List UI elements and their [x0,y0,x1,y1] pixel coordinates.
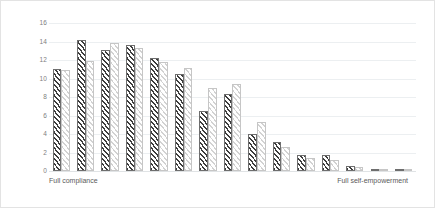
bar [297,155,306,171]
chart-card: 1614121086420 Full compliance Full self-… [0,0,435,208]
bar-group [346,23,363,171]
bar [395,169,404,171]
bar [110,43,119,171]
axis-caption-left: Full compliance [49,177,98,184]
y-axis-tick-label: 2 [43,149,47,156]
bar [273,142,282,171]
bar [224,94,233,171]
bar [322,155,331,171]
bar-group [101,23,118,171]
bar [208,88,217,171]
bar-group [273,23,290,171]
bar-group [224,23,241,171]
bar [281,147,290,171]
y-axis-tick-label: 0 [43,168,47,175]
bar [53,69,62,171]
bar-group [297,23,314,171]
axis-end-captions: Full compliance Full self-empowerment [49,177,416,189]
y-axis-tick-label: 4 [43,131,47,138]
bar [199,111,208,171]
bar-group [53,23,70,171]
bar-group [371,23,388,171]
bar [306,158,315,171]
bar [77,40,86,171]
bar-group [248,23,265,171]
bar [135,48,144,171]
y-axis-tick-label: 14 [40,38,47,45]
bar [86,61,95,171]
plot-area [49,23,416,171]
bar [232,84,241,171]
y-axis-tick-label: 6 [43,112,47,119]
bar-group [175,23,192,171]
bar-group [395,23,412,171]
bars-layer [49,23,416,171]
bar [371,169,380,171]
bar [404,169,413,171]
bar-group [322,23,339,171]
bar [184,68,193,171]
bar-group [199,23,216,171]
bar [126,45,135,171]
y-axis-tick-label: 16 [40,20,47,27]
bar-group [126,23,143,171]
bar [61,70,70,171]
bar [248,134,257,171]
y-axis: 1614121086420 [27,23,47,171]
y-axis-tick-label: 10 [40,75,47,82]
bar [257,122,266,171]
bar [355,167,364,171]
bar [150,58,159,171]
y-axis-tick-label: 12 [40,57,47,64]
axis-caption-right: Full self-empowerment [337,177,408,184]
bar [330,160,339,171]
bar [159,62,168,171]
bar [346,166,355,171]
bar [379,169,388,171]
bar-group [77,23,94,171]
bar [101,50,110,171]
y-axis-tick-label: 8 [43,94,47,101]
bar [175,74,184,171]
gridline [49,171,416,172]
bar-group [150,23,167,171]
